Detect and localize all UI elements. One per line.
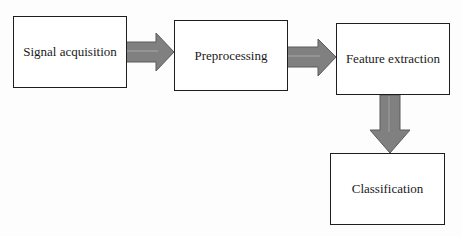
flowchart-canvas: Signal acquisition Preprocessing Feature… [0,0,462,236]
node-classification: Classification [330,153,445,225]
node-label: Preprocessing [195,48,268,64]
node-preprocessing: Preprocessing [174,20,288,91]
arrow-preprocessing-to-feature-extraction [287,39,336,76]
node-feature-extraction: Feature extraction [336,23,450,95]
arrow-feature-extraction-to-classification [370,95,410,153]
node-label: Classification [352,181,424,197]
node-label: Feature extraction [346,51,440,67]
node-signal-acquisition: Signal acquisition [13,16,127,88]
arrow-signal-to-preprocessing [126,33,174,71]
node-label: Signal acquisition [23,44,117,60]
